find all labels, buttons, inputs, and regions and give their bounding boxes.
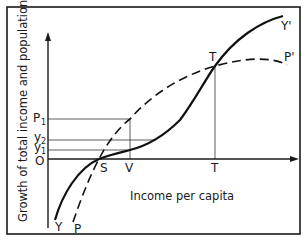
p1-label-base: P — [33, 111, 40, 125]
v-label: V — [125, 161, 134, 175]
y-axis-label: Growth of total income and population — [16, 0, 30, 222]
s-label: S — [100, 161, 108, 175]
x-axis-arrow-icon — [290, 156, 299, 162]
y2-label-sub: 2 — [41, 137, 46, 146]
t-intersection-label: T — [208, 50, 217, 64]
y-tick-p1: P 1 — [33, 111, 46, 127]
income-population-diagram: Growth of total income and population In… — [0, 0, 306, 241]
income-curve-end-label: Y' — [280, 19, 292, 33]
population-curve-start-label: P — [74, 222, 81, 236]
p1-label-sub: 1 — [41, 118, 46, 127]
y-axis-arrow-icon — [45, 32, 51, 41]
x-axis-label: Income per capita — [130, 189, 234, 203]
origin-label: O — [35, 154, 44, 168]
population-curve-end-label: P' — [284, 50, 295, 64]
guide-lines — [48, 66, 215, 159]
t-axis-label: T — [210, 161, 219, 175]
income-curve-start-label: Y — [54, 220, 63, 234]
